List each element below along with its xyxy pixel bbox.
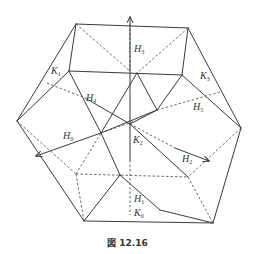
label-h4: H4: [86, 93, 96, 104]
polyhedron-diagram: [0, 0, 255, 254]
label-h5: H5: [193, 102, 203, 113]
label-k1: K1: [51, 66, 61, 77]
label-h0: H0: [63, 131, 73, 142]
label-h2: H2: [182, 154, 192, 165]
label-k2: K2: [133, 135, 143, 146]
label-k0: K0: [134, 208, 144, 219]
label-h1: H1: [134, 194, 144, 205]
label-k3: K3: [200, 71, 210, 82]
axis-arrows: [36, 17, 209, 161]
label-h3: H3: [134, 44, 144, 55]
figure-caption: 図 12.16: [0, 236, 255, 249]
